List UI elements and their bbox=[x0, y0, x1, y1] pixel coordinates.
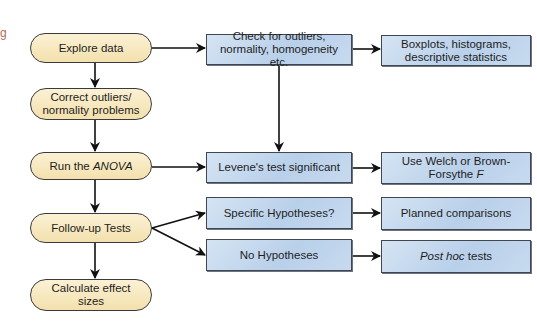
calculate-effect-sizes-node: Calculate effect sizes bbox=[30, 279, 152, 311]
node-label: Specific Hypotheses? bbox=[224, 207, 335, 220]
node-label: Use Welch or Brown-Forsythe F bbox=[397, 155, 515, 181]
node-label: No Hypotheses bbox=[240, 249, 319, 262]
node-label: Planned comparisons bbox=[401, 207, 512, 220]
levene-test-node: Levene's test significant bbox=[206, 152, 352, 183]
follow-up-tests-node: Follow-up Tests bbox=[30, 213, 152, 243]
node-label: Follow-up Tests bbox=[51, 222, 131, 235]
boxplots-histograms-node: Boxplots, histograms, descriptive statis… bbox=[381, 35, 531, 66]
post-hoc-tests-node: Post hoc tests bbox=[381, 240, 531, 273]
run-anova-node: Run the ANOVA bbox=[30, 152, 152, 180]
node-label: Check for outliers, normality, homogenei… bbox=[213, 30, 345, 69]
node-label: Boxplots, histograms, descriptive statis… bbox=[397, 38, 515, 64]
node-label: Calculate effect sizes bbox=[49, 282, 133, 308]
specific-hypotheses-node: Specific Hypotheses? bbox=[206, 197, 352, 229]
explore-data-node: Explore data bbox=[30, 33, 152, 63]
check-assumptions-node: Check for outliers, normality, homogenei… bbox=[206, 34, 352, 65]
node-label: Run the ANOVA bbox=[49, 160, 132, 173]
planned-comparisons-node: Planned comparisons bbox=[381, 197, 531, 230]
no-hypotheses-node: No Hypotheses bbox=[206, 239, 352, 271]
node-label: Levene's test significant bbox=[218, 161, 340, 174]
node-label: Post hoc tests bbox=[420, 250, 492, 263]
welch-brown-forsythe-node: Use Welch or Brown-Forsythe F bbox=[381, 152, 531, 184]
node-label: Correct outliers/ normality problems bbox=[41, 91, 141, 117]
correct-outliers-node: Correct outliers/ normality problems bbox=[30, 88, 152, 120]
node-label: Explore data bbox=[59, 42, 124, 55]
